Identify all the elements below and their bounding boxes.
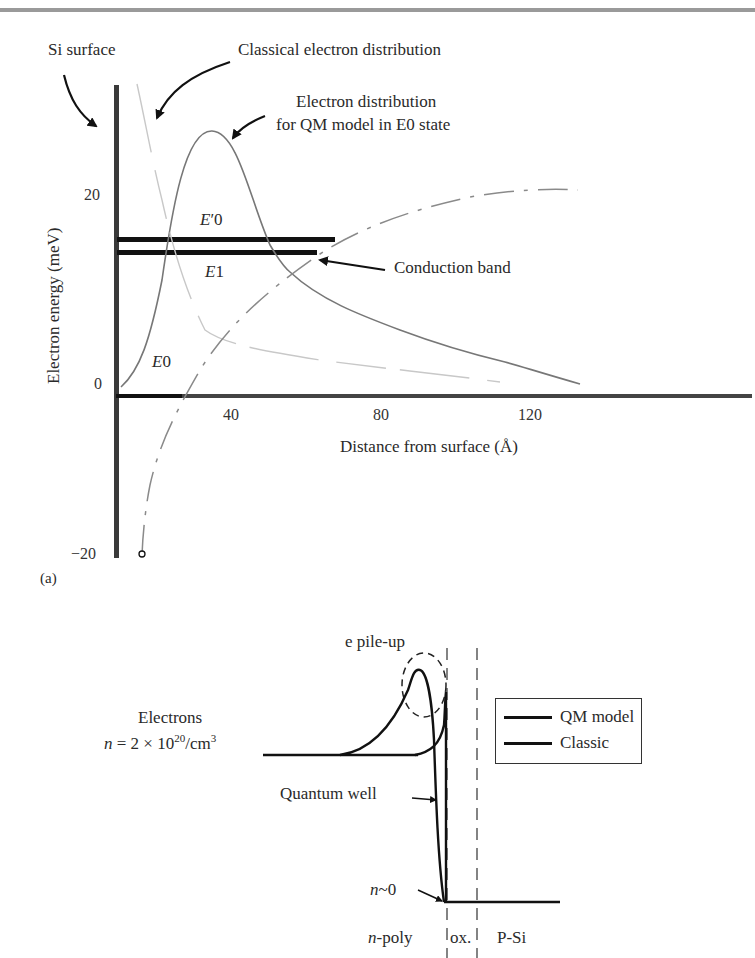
conduction-band-endpoint: [139, 551, 145, 557]
electrons-label: Electrons: [138, 708, 202, 728]
density-unit-exponent: 3: [211, 732, 217, 744]
density-exponent: 20: [174, 732, 185, 744]
quantum-well-arrow: [412, 798, 436, 800]
classical-arrow: [157, 62, 230, 118]
n-poly-text: -poly: [377, 928, 413, 947]
x-axis-label: Distance from surface (Å): [340, 437, 518, 457]
panel-a-label: (a): [40, 570, 57, 587]
pileup-label: e pile-up: [345, 632, 405, 652]
y-tick-20: 20: [84, 186, 100, 204]
x-tick-80: 80: [373, 406, 389, 424]
density-value: = 2 × 10: [113, 734, 175, 753]
e0-label: E0: [152, 352, 171, 372]
legend: QM model Classic: [495, 698, 642, 764]
x-tick-120: 120: [518, 406, 542, 424]
x-axis-e0-level: [116, 394, 752, 398]
classical-distribution-label: Classical electron distribution: [238, 40, 441, 60]
density-n-symbol: n: [104, 734, 113, 753]
e0-subscript: 0: [162, 352, 171, 371]
n-zero-arrow: [418, 890, 442, 901]
legend-item-classic: Classic: [504, 733, 609, 753]
density-unit: /cm: [185, 734, 211, 753]
y-axis: [114, 85, 119, 558]
qm-distribution-curve: [121, 131, 580, 387]
e1-symbol: E: [205, 262, 215, 281]
qm-arrow: [233, 116, 265, 138]
p-si-label: P-Si: [497, 928, 526, 948]
y-tick-neg20: −20: [71, 545, 96, 563]
e1-subscript: 1: [215, 262, 224, 281]
oxide-label: ox.: [450, 928, 471, 948]
energy-level-e1: [117, 250, 317, 255]
energy-level-e-prime-0: [117, 237, 335, 242]
legend-label-qm: QM model: [560, 707, 634, 727]
legend-line-classic: [504, 742, 552, 745]
qm-distribution-label-line2: for QM model in E0 state: [276, 115, 450, 135]
chart-canvas: [0, 0, 755, 958]
n-poly-symbol: n: [368, 928, 377, 947]
n-zero-symbol: n: [370, 880, 379, 899]
si-surface-label: Si surface: [48, 40, 116, 60]
y-tick-0: 0: [94, 375, 102, 393]
n-poly-label: n-poly: [368, 928, 412, 948]
density-label: n = 2 × 1020/cm3: [104, 732, 216, 754]
legend-item-qm: QM model: [504, 707, 634, 727]
n-zero-label: n~0: [370, 880, 396, 900]
conduction-band-curve: [142, 189, 578, 555]
n-zero-value: ~0: [379, 880, 397, 899]
e-prime-0-label: E′0: [200, 210, 223, 230]
quantum-well-label: Quantum well: [280, 784, 377, 804]
e-prime-0-subscript: ′0: [210, 210, 222, 229]
y-axis-label: Electron energy (meV): [44, 228, 64, 384]
si-surface-arrow: [64, 75, 96, 126]
legend-label-classic: Classic: [560, 733, 609, 753]
qm-distribution-label-line1: Electron distribution: [296, 92, 436, 112]
e-prime-0-symbol: E: [200, 210, 210, 229]
e0-symbol: E: [152, 352, 162, 371]
e1-label: E1: [205, 262, 224, 282]
legend-line-qm: [504, 716, 552, 719]
conduction-band-arrow: [320, 260, 385, 270]
conduction-band-label: Conduction band: [394, 258, 511, 278]
x-tick-40: 40: [223, 406, 239, 424]
